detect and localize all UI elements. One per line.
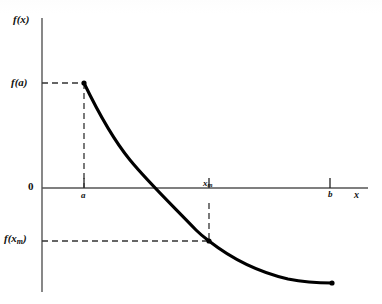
point-marker-a: [81, 80, 86, 85]
fxm-base: f(x: [4, 232, 17, 244]
x-axis-title: x: [354, 190, 359, 200]
y-tick-label-fa: f(a): [11, 77, 28, 88]
x-tick-label-b: b: [328, 190, 333, 199]
y-tick-label-fxm: f(xm): [4, 233, 27, 246]
x-tick-label-xm: xm: [203, 179, 213, 189]
point-marker-xm: [206, 238, 211, 243]
plot-svg: [0, 0, 382, 304]
origin-label: 0: [28, 181, 34, 192]
point-marker-b: [329, 280, 334, 285]
fxm-close: ): [23, 232, 27, 244]
xm-subscript: m: [208, 181, 213, 188]
figure-canvas: f(x) f(a) f(xm) 0 a xm b x: [0, 0, 382, 304]
x-tick-label-a: a: [81, 191, 86, 200]
y-axis-title: f(x): [13, 14, 30, 25]
